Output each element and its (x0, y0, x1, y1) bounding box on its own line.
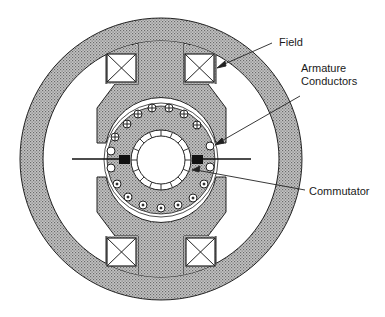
label-armature-line2: Conductors (301, 75, 358, 87)
conductor-neutral (206, 163, 214, 171)
conductor-dot (200, 180, 208, 188)
conductor-cross (123, 120, 131, 128)
conductor-neutral (107, 164, 115, 172)
conductor-cross (180, 110, 188, 118)
field-coil-bottom-right (186, 238, 215, 266)
conductor-cross (111, 133, 119, 141)
conductor-cross (134, 110, 142, 118)
conductor-dot (124, 193, 132, 201)
conductor-dot (174, 201, 182, 209)
brush-right (192, 155, 203, 164)
label-commutator: Commutator (309, 185, 370, 197)
field-coil-bottom-left (107, 238, 136, 266)
conductor-dot (189, 194, 197, 202)
field-coil-top-right (185, 54, 214, 82)
brush-left (119, 155, 130, 164)
label-field: Field (279, 36, 303, 48)
conductor-cross (165, 104, 173, 112)
conductor-dot (139, 201, 147, 209)
arrowhead-icon (217, 61, 226, 68)
dc-motor-diagram: Field Armature Conductors Commutator (0, 0, 385, 317)
conductor-cross (193, 121, 201, 129)
conductor-neutral (107, 147, 115, 155)
conductor-dot (113, 180, 121, 188)
field-coil-top-left (107, 54, 136, 82)
conductor-cross (148, 104, 156, 112)
conductor-dot (157, 204, 165, 212)
conductor-neutral (206, 142, 214, 150)
commutator (131, 130, 191, 190)
label-armature-line1: Armature (301, 62, 346, 74)
